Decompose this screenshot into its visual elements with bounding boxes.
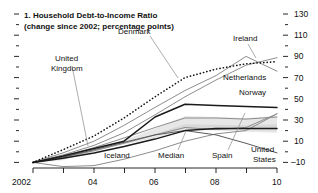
series-label-median: Median [158,151,184,160]
y-tick-label-90: 90 [294,51,304,61]
y-tick-label-minus10: –10 [291,157,305,167]
chart-panel: 1. Household Debt-to-Income Ratio (chang… [0,0,318,193]
x-tick-label-2002: 2002 [12,177,31,187]
chart-canvas: 1. Household Debt-to-Income Ratio (chang… [0,0,318,193]
series-label-united-states-line2: States [253,155,276,164]
series-label-norway: Norway [239,88,266,97]
chart-title: 1. Household Debt-to-Income Ratio [24,11,157,20]
x-tick-label-08: 08 [210,177,220,187]
y-tick-label-110: 110 [294,30,308,40]
series-label-netherlands: Netherlands [223,73,266,82]
y-tick-label-50: 50 [294,94,304,104]
x-tick-label-06: 06 [149,177,159,187]
x-tick-label-04: 04 [88,177,98,187]
series-label-spain: Spain [212,151,232,160]
chart-subtitle: (change since 2002; percentage points) [24,22,174,31]
y-tick-label-70: 70 [294,73,304,83]
series-label-iceland: Iceland [104,151,130,160]
y-tick-label-10: 10 [294,136,304,146]
right-axis-ticks [283,14,288,162]
series-label-united-kingdom-line1: United [55,54,78,63]
series-label-united-states-line1: United [251,145,274,154]
left-axis-ticks [14,14,19,162]
x-axis-ticks [33,168,277,173]
series-label-ireland: Ireland [233,34,257,43]
series-label-denmark: Denmark [118,27,151,36]
y-tick-label-130: 130 [294,9,308,19]
x-tick-label-10: 10 [272,177,282,187]
series-label-united-kingdom-line2: Kingdom [51,64,83,73]
y-tick-label-30: 30 [294,115,304,125]
